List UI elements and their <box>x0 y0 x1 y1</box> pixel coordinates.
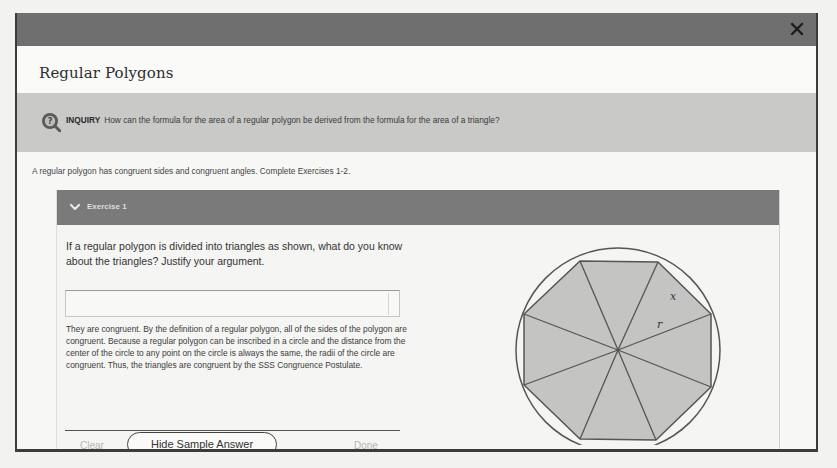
radius-label-r: r <box>657 318 662 331</box>
chevron-down-icon <box>69 201 81 213</box>
input-divider <box>388 293 389 315</box>
dialog-topbar: ✕ <box>17 13 816 46</box>
title-area: Regular Polygons <box>17 46 816 93</box>
svg-text:?: ? <box>48 117 53 126</box>
hide-sample-answer-button[interactable]: Hide Sample Answer <box>127 432 277 452</box>
page-title: Regular Polygons <box>39 64 174 82</box>
clear-button[interactable]: Clear <box>80 440 104 451</box>
exercise-card: Exercise 1 If a regular polygon is divid… <box>56 190 780 452</box>
sample-answer-text: They are congruent. By the definition of… <box>66 324 411 372</box>
side-label-x: x <box>670 290 676 303</box>
inquiry-question: How can the formula for the area of a re… <box>104 115 499 125</box>
divider <box>65 430 400 431</box>
done-button[interactable]: Done <box>354 440 378 451</box>
inquiry-label: INQUIRY <box>66 115 100 125</box>
inquiry-text: INQUIRYHow can the formula for the area … <box>66 115 500 125</box>
inquiry-magnifier-question-icon: ? <box>41 112 61 132</box>
regular-polygons-dialog: ✕ Regular Polygons ? INQUIRYHow can the … <box>15 13 818 452</box>
inquiry-banner: ? INQUIRYHow can the formula for the are… <box>17 93 816 152</box>
close-button[interactable]: ✕ <box>784 17 810 43</box>
answer-input[interactable] <box>65 290 400 317</box>
octagon-figure: x r <box>512 235 722 445</box>
octagon-in-circle-diagram <box>512 235 722 445</box>
exercise-header-toggle[interactable]: Exercise 1 <box>57 190 779 225</box>
close-icon: ✕ <box>788 17 806 42</box>
intro-text: A regular polygon has congruent sides an… <box>32 166 350 176</box>
exercise-title: Exercise 1 <box>87 202 127 211</box>
exercise-question: If a regular polygon is divided into tri… <box>66 239 406 269</box>
